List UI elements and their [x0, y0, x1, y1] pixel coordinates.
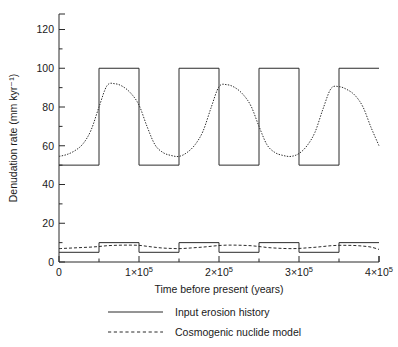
x-tick-label: 1×105 — [125, 265, 153, 278]
series-path-0 — [59, 68, 379, 165]
legend-label: Input erosion history — [175, 306, 270, 318]
y-tick-label: 80 — [42, 101, 54, 113]
x-axis-title: Time before present (years) — [154, 283, 283, 295]
y-axis-title: Denudation rate (mm kyr⁻¹) — [7, 74, 19, 203]
x-tick-label: 2×105 — [205, 265, 233, 278]
y-axis-ticks — [59, 30, 65, 263]
y-tick-label: 20 — [42, 217, 54, 229]
denudation-rate-chart: 020406080100120 01×1052×1053×1054×105 De… — [0, 0, 398, 347]
y-tick-label: 40 — [42, 178, 54, 190]
y-tick-label: 0 — [48, 256, 54, 268]
figure-root: 020406080100120 01×1052×1053×1054×105 De… — [0, 0, 398, 347]
x-tick-label: 4×105 — [365, 265, 393, 278]
y-tick-label: 100 — [36, 62, 54, 74]
x-tick-label: 0 — [56, 266, 62, 278]
legend: Input erosion historyCosmogenic nuclide … — [108, 306, 301, 338]
x-tick-label: 3×105 — [285, 265, 313, 278]
data-series-layer — [59, 68, 379, 252]
y-tick-label: 60 — [42, 140, 54, 152]
x-axis-tick-labels: 01×1052×1053×1054×105 — [56, 265, 393, 278]
legend-label: Cosmogenic nuclide model — [175, 326, 301, 338]
x-axis-ticks — [59, 256, 379, 262]
series-path-2 — [59, 243, 379, 253]
y-tick-label: 120 — [36, 23, 54, 35]
y-axis-tick-labels: 020406080100120 — [36, 23, 54, 267]
